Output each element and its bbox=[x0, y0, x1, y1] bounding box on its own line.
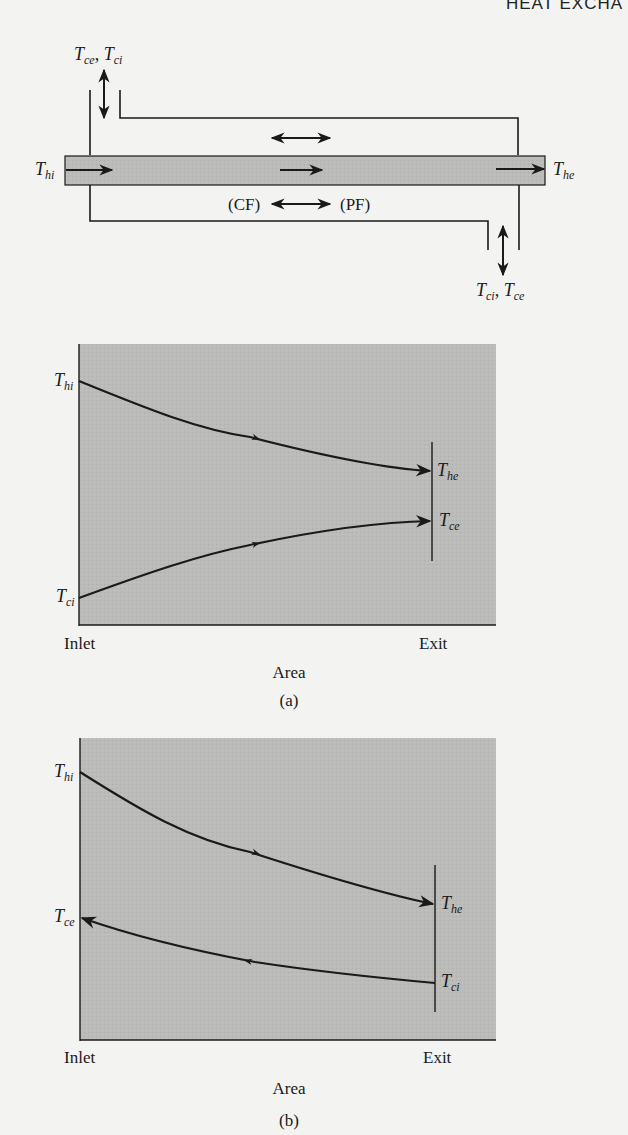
chart-b-inlet-label: Inlet bbox=[64, 1048, 95, 1067]
top-nozzle-label: Tce, Tci bbox=[74, 44, 122, 67]
chart-b-exit-label: Exit bbox=[423, 1048, 452, 1067]
shell-top-wall bbox=[120, 90, 518, 155]
chart-a-tci-label: Tci bbox=[56, 586, 75, 609]
counterflow-label: (CF) bbox=[228, 195, 260, 214]
shell-bottom-wall bbox=[90, 185, 488, 250]
chart-a-parallel-flow: Thi Tci The Tce Inlet Exit Area (a) bbox=[54, 344, 496, 710]
heat-exchanger-schematic: Tce, Tci Tci, Tce Thi The (CF) (PF) bbox=[35, 44, 575, 303]
chart-b-tce-label: Tce bbox=[54, 906, 75, 929]
chart-a-exit-label: Exit bbox=[419, 634, 448, 653]
chart-b-counterflow: Thi Tce The Tci Inlet Exit Area (b) bbox=[54, 738, 496, 1130]
chart-b-caption: (b) bbox=[279, 1111, 299, 1130]
chart-b-thi-label: Thi bbox=[54, 761, 73, 784]
hot-inlet-label: Thi bbox=[35, 159, 54, 182]
chart-a-plot-area bbox=[79, 344, 496, 625]
chart-a-thi-label: Thi bbox=[54, 370, 73, 393]
hot-exit-label: The bbox=[553, 159, 575, 182]
figure-canvas: Tce, Tci Tci, Tce Thi The (CF) (PF) Thi … bbox=[0, 0, 628, 1135]
chart-a-inlet-label: Inlet bbox=[64, 634, 95, 653]
parallel-flow-label: (PF) bbox=[340, 195, 370, 214]
chart-a-caption: (a) bbox=[280, 691, 299, 710]
chart-b-xlabel: Area bbox=[272, 1079, 305, 1098]
bottom-nozzle-label: Tci, Tce bbox=[476, 280, 525, 303]
chart-a-xlabel: Area bbox=[272, 663, 305, 682]
chart-b-plot-area bbox=[80, 738, 496, 1040]
